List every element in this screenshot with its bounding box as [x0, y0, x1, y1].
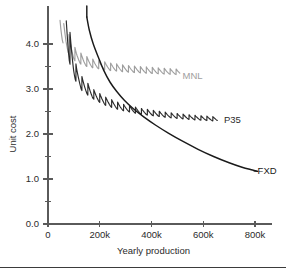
- series-line-fxd: [87, 17, 258, 171]
- x-axis-title: Yearly production: [117, 245, 190, 256]
- series-line-mnl: [60, 20, 63, 42]
- series-label-mnl: MNL: [183, 70, 203, 81]
- x-axis-tick-label: 600k: [193, 229, 214, 240]
- figure-bottom-divider: [0, 267, 286, 268]
- y-axis-tick-label: 2.0: [26, 128, 39, 139]
- series-group: [57, 6, 258, 171]
- y-axis-tick-label: 1.0: [26, 173, 39, 184]
- chart-figure: 0.01.02.03.04.00200k400k600k800k Yearly …: [0, 0, 286, 272]
- series-label-fxd: FXD: [258, 165, 277, 176]
- series-fxd: [87, 6, 258, 171]
- series-line-mnl: [64, 24, 180, 75]
- series-label-p35: P35: [224, 114, 241, 125]
- x-axis-tick-label: 200k: [89, 229, 110, 240]
- x-axis-tick-label: 800k: [245, 229, 266, 240]
- chart-canvas: 0.01.02.03.04.00200k400k600k800k Yearly …: [0, 0, 286, 272]
- x-axis-tick-label: 0: [45, 229, 50, 240]
- y-axis-tick-label: 0.0: [26, 218, 39, 229]
- y-axis-tick-label: 4.0: [26, 38, 39, 49]
- x-axis-tick-label: 400k: [141, 229, 162, 240]
- y-axis-tick-label: 3.0: [26, 83, 39, 94]
- y-axis-title: Unit cost: [7, 115, 18, 152]
